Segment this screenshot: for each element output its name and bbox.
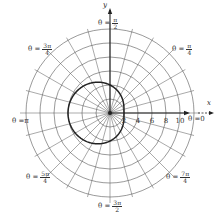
denominator: 2 [115, 207, 119, 213]
origin-point [108, 111, 112, 115]
fraction: 7π4 [180, 171, 190, 184]
grid-ray [110, 38, 154, 113]
angle-label-pi: θ = π [12, 118, 29, 125]
denominator: 4 [183, 178, 187, 184]
grid-ray [67, 113, 111, 188]
grid-ray [110, 49, 174, 113]
grid-ray [110, 70, 185, 114]
angle-label-3pi-over-2: θ = 3π2 [98, 200, 122, 213]
angle-prefix: θ = [172, 46, 184, 53]
fraction: π4 [186, 43, 192, 56]
x-tick-2: 2 [122, 117, 126, 125]
fraction: 5π4 [40, 171, 50, 184]
x-tick-8: 8 [164, 117, 168, 125]
grid-ray [46, 49, 110, 113]
fraction: 3π2 [112, 200, 122, 213]
angle-prefix: θ = [98, 203, 110, 210]
grid-ray [35, 70, 110, 114]
angle-label-pi-over-4: θ = π4 [172, 43, 192, 56]
angle-prefix: θ = [28, 46, 40, 53]
x-tick-6: 6 [150, 117, 154, 125]
angle-label-0: θ = 0 [188, 116, 205, 123]
x-axis-end-arrow-icon [209, 111, 214, 115]
angle-label-5pi-over-4: θ = 5π4 [26, 171, 50, 184]
angle-label-pi-over-2: θ = π2 [98, 17, 118, 30]
grid-ray [46, 113, 110, 177]
denominator: 2 [113, 24, 117, 30]
x-tick-10: 10 [176, 117, 185, 125]
grid-ray [67, 38, 111, 113]
x-tick-4: 4 [136, 117, 140, 125]
denominator: 4 [45, 50, 49, 56]
angle-label-7pi-over-4: θ = 7π4 [166, 171, 190, 184]
fraction: 3π4 [42, 43, 52, 56]
angle-value: π [24, 118, 29, 125]
y-axis-label: y [103, 1, 107, 9]
grid-ray [110, 113, 154, 188]
grid-ray [35, 113, 110, 157]
denominator: 4 [43, 178, 47, 184]
angle-label-3pi-over-4: θ = 3π4 [28, 43, 52, 56]
angle-value: 0 [200, 116, 204, 123]
fraction: π2 [112, 17, 118, 30]
angle-prefix: θ = [188, 116, 200, 123]
angle-prefix: θ = [98, 20, 110, 27]
angle-prefix: θ = [166, 174, 178, 181]
angle-prefix: θ = [12, 118, 24, 125]
y-axis-arrow-icon [108, 8, 112, 14]
polar-grid [0, 0, 220, 218]
x-axis-label: x [207, 99, 211, 107]
angle-prefix: θ = [26, 174, 38, 181]
denominator: 4 [187, 50, 191, 56]
